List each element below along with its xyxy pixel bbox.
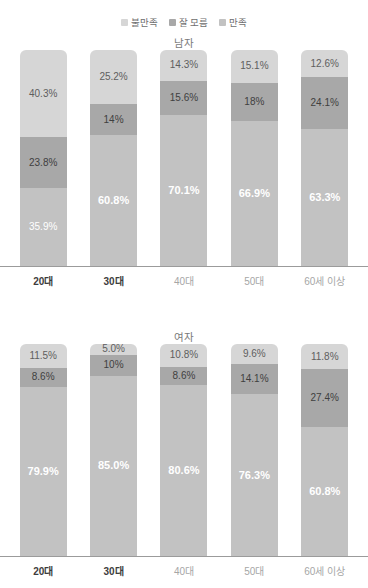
stacked-bar: 5.0%10%85.0% [90,344,137,556]
axis-label: 30대 [89,273,139,288]
bar-segment-neg: 12.6% [301,50,348,77]
stacked-bar: 14.3%15.6%70.1% [160,50,207,266]
bar-column: 12.6%24.1%63.3% [300,50,350,266]
bar-segment-pos: 80.6% [160,385,207,556]
stacked-bar: 25.2%14%60.8% [90,50,137,266]
bar-segment-pos: 60.8% [301,427,348,556]
bar-segment-unk: 23.8% [20,137,67,188]
bar-segment-pos: 35.9% [20,188,67,266]
bar-segment-neg: 14.3% [160,50,207,81]
axis-label: 60세 이상 [300,563,350,578]
axis-label: 40대 [159,563,209,578]
bar-segment-neg: 25.2% [90,50,137,104]
bar-column: 25.2%14%60.8% [89,50,139,266]
bar-segment-unk: 14% [90,104,137,134]
legend-item-unk: 잘 모름 [169,18,209,28]
bar-column: 9.6%14.1%76.3% [229,344,279,556]
axis-label: 20대 [18,273,68,288]
legend-item-neg: 불만족 [121,18,158,28]
axis-label: 30대 [89,563,139,578]
bar-column: 14.3%15.6%70.1% [159,50,209,266]
bar-segment-neg: 9.6% [231,344,278,364]
bar-column: 40.3%23.8%35.9% [18,50,68,266]
stacked-bar: 12.6%24.1%63.3% [301,50,348,266]
plot-area-female: 11.5%8.6%79.9%5.0%10%85.0%10.8%8.6%80.6%… [0,344,368,556]
bar-segment-unk: 8.6% [20,368,67,386]
legend-swatch-neg [121,19,128,26]
bar-segment-pos: 60.8% [90,135,137,266]
bar-column: 5.0%10%85.0% [89,344,139,556]
bar-column: 15.1%18%66.9% [229,50,279,266]
bar-segment-unk: 18% [231,83,278,122]
axis-label: 60세 이상 [300,273,350,288]
stacked-bar: 40.3%23.8%35.9% [20,50,67,266]
bar-segment-neg: 15.1% [231,50,278,83]
legend-swatch-unk [169,19,176,26]
bar-segment-neg: 11.8% [301,344,348,369]
legend-label-neg: 불만족 [131,18,158,28]
bar-segment-neg: 5.0% [90,344,137,355]
bar-segment-unk: 27.4% [301,369,348,427]
bar-segment-unk: 8.6% [160,367,207,385]
bar-segment-pos: 76.3% [231,394,278,556]
bar-segment-pos: 63.3% [301,129,348,266]
legend-label-pos: 만족 [229,18,247,28]
axis-labels-male: 20대30대40대50대60세 이상 [0,273,368,288]
panel-title-female: 여자 [0,330,368,344]
panel-title-male: 남자 [0,36,368,50]
axis-label: 20대 [18,563,68,578]
bar-column: 11.5%8.6%79.9% [18,344,68,556]
axis-line-female [0,556,368,557]
legend-swatch-pos [219,19,226,26]
stacked-bar-chart: 불만족 잘 모름 만족 남자 40.3%23.8%35.9%25.2%14%60… [0,0,368,588]
bar-segment-pos: 85.0% [90,376,137,556]
stacked-bar: 15.1%18%66.9% [231,50,278,266]
bar-column: 10.8%8.6%80.6% [159,344,209,556]
bar-segment-neg: 10.8% [160,344,207,367]
axis-label: 50대 [229,563,279,578]
bar-segment-pos: 70.1% [160,115,207,266]
legend-label-unk: 잘 모름 [179,18,209,28]
bar-segment-unk: 15.6% [160,81,207,115]
axis-line-male [0,266,368,267]
bar-segment-pos: 66.9% [231,121,278,266]
stacked-bar: 11.8%27.4%60.8% [301,344,348,556]
bar-segment-unk: 24.1% [301,77,348,129]
chart-legend: 불만족 잘 모름 만족 [0,16,368,29]
bar-segment-unk: 10% [90,355,137,376]
axis-labels-female: 20대30대40대50대60세 이상 [0,563,368,578]
bar-column: 11.8%27.4%60.8% [300,344,350,556]
bar-segment-neg: 11.5% [20,344,67,368]
bar-segment-pos: 79.9% [20,387,67,556]
axis-label: 50대 [229,273,279,288]
plot-area-male: 40.3%23.8%35.9%25.2%14%60.8%14.3%15.6%70… [0,50,368,266]
panel-male: 남자 40.3%23.8%35.9%25.2%14%60.8%14.3%15.6… [0,36,368,298]
stacked-bar: 9.6%14.1%76.3% [231,344,278,556]
page-title [0,0,368,6]
bar-segment-unk: 14.1% [231,364,278,394]
stacked-bar: 11.5%8.6%79.9% [20,344,67,556]
panel-female: 여자 11.5%8.6%79.9%5.0%10%85.0%10.8%8.6%80… [0,330,368,588]
axis-label: 40대 [159,273,209,288]
stacked-bar: 10.8%8.6%80.6% [160,344,207,556]
bar-segment-neg: 40.3% [20,50,67,137]
legend-item-pos: 만족 [219,18,247,28]
